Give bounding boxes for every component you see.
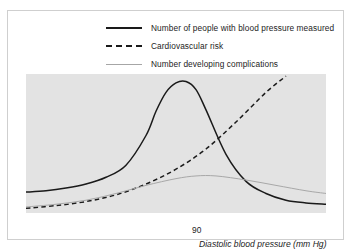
legend-item-complications: Number developing complications — [106, 55, 344, 73]
dashed-line-key-icon — [106, 40, 142, 52]
chart-legend: Number of people with blood pressure mea… — [106, 19, 344, 73]
legend-label-cardiovascular-risk: Cardiovascular risk — [151, 41, 223, 52]
thin-line-key-icon — [106, 58, 142, 70]
legend-item-people-measured: Number of people with blood pressure mea… — [106, 19, 344, 37]
curve-people-measured — [26, 81, 326, 204]
plot-area — [26, 74, 326, 213]
figure-frame: Number of people with blood pressure mea… — [7, 10, 344, 240]
x-axis-tick-90: 90 — [192, 225, 201, 235]
x-axis-label: Diastolic blood pressure (mm Hg) — [199, 239, 327, 249]
plot-curves — [26, 74, 326, 213]
legend-label-people-measured: Number of people with blood pressure mea… — [151, 23, 334, 34]
solid-line-key-icon — [106, 22, 142, 34]
legend-item-cardiovascular-risk: Cardiovascular risk — [106, 37, 344, 55]
legend-label-complications: Number developing complications — [151, 59, 278, 70]
curve-complications — [26, 176, 326, 207]
